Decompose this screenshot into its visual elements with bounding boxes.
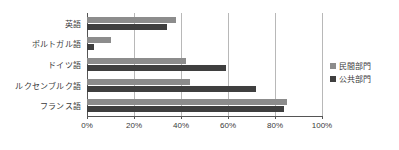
tick-label: 0% bbox=[81, 121, 93, 130]
bar-group bbox=[87, 95, 322, 116]
bar-group bbox=[87, 13, 322, 34]
tick-label: 100% bbox=[312, 121, 332, 130]
category-label: 英語 bbox=[0, 13, 85, 34]
bar bbox=[87, 106, 284, 112]
value-axis-line bbox=[87, 116, 323, 117]
bar bbox=[87, 58, 186, 64]
tick-label: 60% bbox=[220, 121, 236, 130]
bar bbox=[87, 17, 176, 23]
tick-mark bbox=[87, 116, 88, 119]
chart-legend: 民間部門公共部門 bbox=[330, 60, 371, 84]
plot-area bbox=[87, 13, 322, 116]
bar bbox=[87, 65, 226, 71]
bar bbox=[87, 86, 256, 92]
value-axis-labels: 0%20%40%60%80%100% bbox=[0, 121, 399, 135]
legend-swatch-icon bbox=[330, 63, 336, 69]
legend-label: 公共部門 bbox=[339, 73, 371, 84]
bars-layer bbox=[87, 13, 322, 116]
tick-mark bbox=[181, 116, 182, 119]
bar bbox=[87, 44, 94, 50]
horizontal-bar-chart: 英語ポルトガル語ドイツ語ルクセンブルク語フランス語 0%20%40%60%80%… bbox=[0, 0, 399, 150]
category-label: ルクセンブルク語 bbox=[0, 75, 85, 96]
category-label: ドイツ語 bbox=[0, 54, 85, 75]
gridline bbox=[322, 13, 323, 116]
legend-label: 民間部門 bbox=[339, 60, 371, 71]
category-axis: 英語ポルトガル語ドイツ語ルクセンブルク語フランス語 bbox=[0, 13, 85, 116]
tick-mark bbox=[228, 116, 229, 119]
category-label: フランス語 bbox=[0, 95, 85, 116]
bar-group bbox=[87, 75, 322, 96]
bar bbox=[87, 99, 287, 105]
legend-item[interactable]: 民間部門 bbox=[330, 60, 371, 71]
bar-group bbox=[87, 34, 322, 55]
bar-group bbox=[87, 54, 322, 75]
bar bbox=[87, 79, 190, 85]
tick-mark bbox=[322, 116, 323, 119]
bar bbox=[87, 24, 167, 30]
tick-label: 40% bbox=[173, 121, 189, 130]
tick-mark bbox=[134, 116, 135, 119]
tick-label: 80% bbox=[267, 121, 283, 130]
legend-swatch-icon bbox=[330, 76, 336, 82]
tick-mark bbox=[275, 116, 276, 119]
legend-item[interactable]: 公共部門 bbox=[330, 73, 371, 84]
bar bbox=[87, 37, 111, 43]
category-label: ポルトガル語 bbox=[0, 34, 85, 55]
tick-label: 20% bbox=[126, 121, 142, 130]
